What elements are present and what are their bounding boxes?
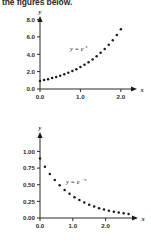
data-point <box>117 211 120 214</box>
data-point <box>83 201 86 204</box>
y-axis-growth <box>37 16 42 89</box>
data-point <box>54 179 57 182</box>
data-point <box>63 73 66 76</box>
y-tick-label-4: 1.00 <box>23 148 36 155</box>
y-tick-label-4: 8.0 <box>26 16 35 23</box>
data-point <box>103 208 106 211</box>
data-point <box>58 184 61 187</box>
data-point <box>113 211 116 214</box>
data-points-decay <box>39 157 130 215</box>
data-points-growth <box>39 28 122 82</box>
data-point <box>43 79 46 82</box>
equation-base: y = e <box>65 178 80 185</box>
x-axis-decay <box>40 215 138 220</box>
data-point <box>71 70 74 73</box>
x-tick-label-1: 1.0 <box>68 222 77 229</box>
x-axis-label: x <box>140 215 145 222</box>
y-axis-decay <box>37 132 42 218</box>
data-point <box>68 193 71 196</box>
data-point <box>59 74 62 77</box>
data-point <box>122 212 125 215</box>
data-point <box>49 173 52 176</box>
data-point <box>39 157 42 160</box>
equation-exponent: x <box>85 44 88 49</box>
x-tick-label-0: 0.0 <box>36 93 45 100</box>
data-point <box>55 76 58 79</box>
data-point <box>39 80 42 83</box>
data-point <box>83 64 86 67</box>
x-axis-growth <box>40 86 137 91</box>
scatter-plot-exponential-decay: 0.00 0.25 0.50 0.75 1.00 0.0 1.0 2.0 y x… <box>0 124 151 246</box>
data-point <box>78 199 81 202</box>
x-axis-arrowhead <box>132 215 138 220</box>
data-point <box>98 207 101 210</box>
equation-annotation-growth: y = e x <box>69 44 88 52</box>
data-point <box>91 58 94 61</box>
equation-base: y = e <box>69 45 84 52</box>
data-point <box>67 72 70 75</box>
y-tick-label-0: 0.0 <box>26 85 35 92</box>
x-tick-label-2: 2.0 <box>117 93 126 100</box>
y-tick-label-3: 0.75 <box>23 164 36 171</box>
x-tick-label-0: 0.0 <box>36 222 45 229</box>
y-tick-label-2: 0.50 <box>23 181 36 188</box>
data-point <box>47 78 50 81</box>
data-point <box>79 66 82 69</box>
data-point <box>107 44 110 47</box>
x-tick-label-2: 2.0 <box>101 222 110 229</box>
data-point <box>112 39 115 42</box>
y-tick-label-0: 0.00 <box>23 214 36 221</box>
data-point <box>73 196 76 199</box>
data-point <box>116 34 119 37</box>
y-tick-label-2: 4.0 <box>26 51 35 58</box>
scatter-plot-exponential-growth: 0.0 2.0 4.0 6.0 8.0 0.0 1.0 2.0 y x y = … <box>0 10 151 122</box>
data-point <box>87 61 90 64</box>
data-point <box>75 68 78 71</box>
y-axis-arrowhead <box>37 16 42 22</box>
x-axis-arrowhead <box>131 86 137 91</box>
y-axis-label: y <box>38 10 42 15</box>
y-tick-label-1: 2.0 <box>26 68 35 75</box>
y-tick-label-3: 6.0 <box>26 33 35 40</box>
y-tick-label-1: 0.25 <box>23 198 36 205</box>
y-axis-arrowhead <box>37 132 42 138</box>
caption-text: the figures below. <box>2 0 149 8</box>
data-point <box>127 213 130 216</box>
equation-exponent: −x <box>82 177 87 182</box>
x-axis-label: x <box>139 86 144 93</box>
data-point <box>103 48 106 51</box>
equation-annotation-decay: y = e −x <box>65 177 86 185</box>
data-point <box>93 205 96 208</box>
x-tick-label-1: 1.0 <box>76 93 85 100</box>
data-point <box>108 210 111 213</box>
y-axis-label: y <box>38 124 42 131</box>
data-point <box>51 77 54 80</box>
data-point <box>63 189 66 192</box>
data-point <box>88 203 91 206</box>
data-point <box>99 52 102 55</box>
data-point <box>120 28 123 31</box>
data-point <box>44 166 47 169</box>
figure-exponential-decay: 0.00 0.25 0.50 0.75 1.00 0.0 1.0 2.0 y x… <box>0 124 151 246</box>
data-point <box>95 55 98 58</box>
figure-exponential-growth: 0.0 2.0 4.0 6.0 8.0 0.0 1.0 2.0 y x y = … <box>0 10 151 122</box>
